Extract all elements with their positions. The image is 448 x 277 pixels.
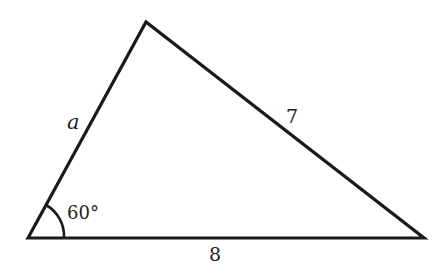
side-label-a: a: [67, 110, 80, 134]
side-label-8: 8: [209, 243, 221, 265]
angle-arc: [46, 205, 64, 238]
side-label-7: 7: [286, 105, 298, 127]
angle-label-60: 60°: [67, 202, 99, 223]
triangle-diagram: a 7 8 60°: [0, 0, 448, 277]
